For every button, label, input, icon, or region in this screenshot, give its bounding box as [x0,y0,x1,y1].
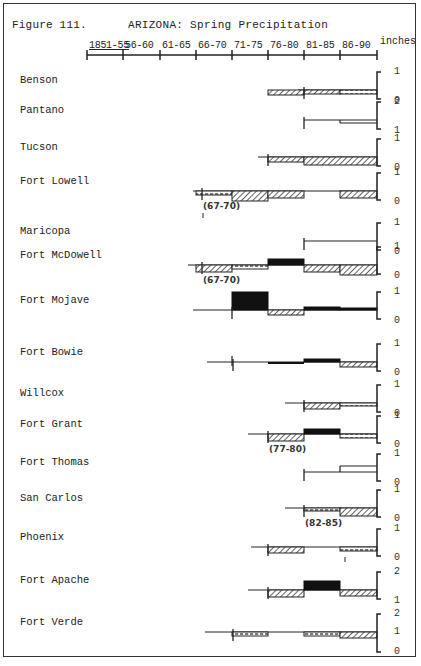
station-row [258,139,381,166]
station-row [268,72,381,99]
precipitation-chart [0,0,421,666]
station-row [193,173,381,201]
station-row [251,529,381,556]
station-row [304,102,381,129]
period-axis [87,50,377,60]
station-row [205,614,381,652]
station-row [248,416,381,443]
station-row [304,454,381,481]
station-row [248,572,381,599]
station-rows [188,72,381,652]
station-row [207,344,381,371]
station-row [193,292,381,319]
station-row [285,385,381,412]
station-row [304,223,381,250]
station-row [285,490,381,517]
station-row [188,247,381,275]
